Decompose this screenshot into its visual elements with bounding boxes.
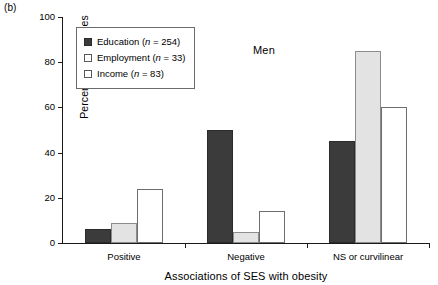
x-group-label-ns-or-curvilinear: NS or curvilinear	[333, 251, 403, 262]
y-tick-label: 0	[50, 236, 55, 249]
x-tick	[307, 243, 308, 248]
bar-employment-positive	[111, 223, 137, 243]
bar-education-ns-or-curvilinear	[329, 141, 355, 243]
legend-label-income: Income (n = 83)	[97, 68, 164, 80]
x-axis-title: Associations of SES with obesity	[63, 270, 429, 282]
bar-education-negative	[207, 130, 233, 243]
y-tick-label: 20	[44, 191, 55, 204]
bar-education-positive	[85, 229, 111, 243]
annotation-men: Men	[253, 44, 275, 56]
chart-legend: Education (n = 254)Employment (n = 33)In…	[76, 27, 195, 89]
legend-item-education: Education (n = 254)	[84, 34, 185, 50]
legend-item-income: Income (n = 83)	[84, 66, 185, 82]
y-tick-label: 80	[44, 55, 55, 68]
bar-income-positive	[137, 189, 163, 243]
legend-label-education: Education (n = 254)	[97, 36, 180, 48]
legend-swatch-income	[84, 70, 92, 78]
bar-employment-negative	[233, 232, 259, 243]
plot-area: Percentage of studies 020406080100 Posit…	[62, 17, 429, 244]
y-tick: 100	[58, 17, 63, 18]
legend-swatch-education	[84, 38, 92, 46]
figure-panel-b: (b) Percentage of studies 020406080100 P…	[0, 0, 438, 285]
legend-item-employment: Employment (n = 33)	[84, 50, 185, 66]
x-group-label-negative: Negative	[227, 251, 265, 262]
bar-income-ns-or-curvilinear	[381, 107, 407, 243]
bar-employment-ns-or-curvilinear	[355, 51, 381, 243]
legend-swatch-employment	[84, 54, 92, 62]
panel-label: (b)	[4, 2, 17, 14]
y-tick: 20	[58, 198, 63, 199]
legend-label-employment: Employment (n = 33)	[97, 52, 185, 64]
x-tick	[185, 243, 186, 248]
y-tick-label: 60	[44, 100, 55, 113]
x-group-label-positive: Positive	[107, 251, 140, 262]
y-tick: 0	[58, 243, 63, 244]
y-tick: 40	[58, 153, 63, 154]
y-tick: 80	[58, 62, 63, 63]
y-tick-label: 100	[39, 10, 55, 23]
y-tick-label: 40	[44, 146, 55, 159]
bar-income-negative	[259, 211, 285, 243]
x-tick	[429, 243, 430, 248]
y-tick: 60	[58, 107, 63, 108]
